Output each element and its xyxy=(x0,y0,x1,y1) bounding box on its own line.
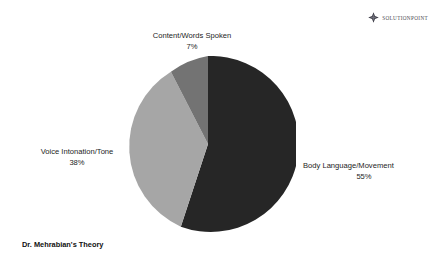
pie-chart xyxy=(120,56,296,232)
diamond-compass-icon xyxy=(368,12,379,23)
pie-label-content-words-name: Content/Words Spoken xyxy=(153,31,231,40)
pie-label-body-language-name: Body Language/Movement xyxy=(303,161,394,170)
pie-label-content-words: Content/Words Spoken 7% xyxy=(122,30,262,52)
brand-wordmark: SOLUTIONPOINT xyxy=(382,15,428,21)
pie-label-body-language: Body Language/Movement 55% xyxy=(303,160,435,182)
pie-chart-svg xyxy=(120,56,296,232)
pie-label-body-language-value: 55% xyxy=(303,171,425,182)
pie-label-voice-tone-value: 38% xyxy=(16,157,138,168)
chart-canvas: SOLUTIONPOINT Content/Words Spoken 7% Vo… xyxy=(0,0,444,268)
pie-label-voice-tone: Voice Intonation/Tone 38% xyxy=(16,146,138,168)
chart-caption: Dr. Mehrabian's Theory xyxy=(22,240,103,249)
pie-label-voice-tone-name: Voice Intonation/Tone xyxy=(41,147,114,156)
brand-logo: SOLUTIONPOINT xyxy=(368,12,428,23)
pie-label-content-words-value: 7% xyxy=(122,41,262,52)
